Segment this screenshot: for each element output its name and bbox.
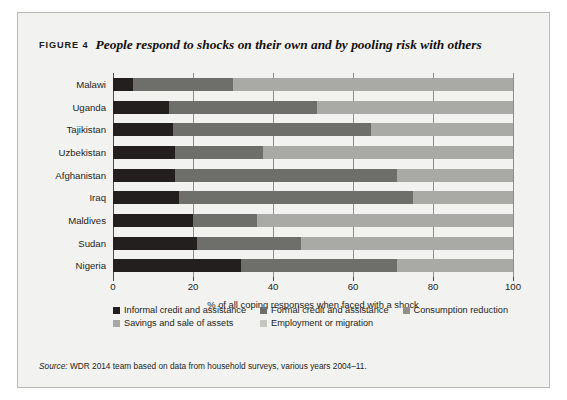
x-axis-tick-label: 60 bbox=[348, 281, 359, 292]
bar-row bbox=[113, 123, 513, 136]
x-axis-tick-label: 80 bbox=[428, 281, 439, 292]
gridline bbox=[513, 73, 514, 277]
figure-number-label: FIGURE 4 bbox=[39, 40, 89, 50]
legend-line: Informal credit and assistanceFormal cre… bbox=[113, 305, 538, 315]
bar-segment bbox=[173, 123, 371, 136]
legend-label: Savings and sale of assets bbox=[124, 318, 233, 328]
y-axis-category-label: Maldives bbox=[18, 215, 106, 226]
bar-segment bbox=[413, 191, 513, 204]
bar-segment bbox=[241, 259, 397, 272]
bar-row bbox=[113, 101, 513, 114]
bar-segment bbox=[113, 78, 133, 91]
y-axis-category-label: Afghanistan bbox=[18, 170, 106, 181]
plot-area: 020406080100 MalawiUgandaTajikistanUzbek… bbox=[113, 73, 513, 277]
legend-label: Formal credit and assistance bbox=[271, 305, 388, 315]
y-axis-category-label: Uzbekistan bbox=[18, 147, 106, 158]
figure-card: FIGURE 4People respond to shocks on thei… bbox=[17, 12, 550, 388]
bar-row bbox=[113, 191, 513, 204]
legend-label: Consumption reduction bbox=[414, 305, 508, 315]
bar-segment bbox=[113, 169, 175, 182]
bar-segment bbox=[169, 101, 317, 114]
bar-row bbox=[113, 169, 513, 182]
bar-segment bbox=[113, 191, 179, 204]
y-axis-category-label: Malawi bbox=[18, 79, 106, 90]
y-axis-category-label: Iraq bbox=[18, 192, 106, 203]
x-axis-tick-label: 20 bbox=[188, 281, 199, 292]
source-label: Source: bbox=[39, 361, 68, 371]
legend-label: Informal credit and assistance bbox=[124, 305, 246, 315]
legend-item[interactable]: Formal credit and assistance bbox=[260, 305, 388, 315]
bar-row bbox=[113, 259, 513, 272]
source-note: Source: WDR 2014 team based on data from… bbox=[39, 361, 367, 371]
source-text: WDR 2014 team based on data from househo… bbox=[68, 361, 367, 371]
bar-segment bbox=[113, 237, 197, 250]
bar-row bbox=[113, 78, 513, 91]
legend-swatch-icon bbox=[403, 307, 410, 314]
x-axis-tick-label: 100 bbox=[505, 281, 521, 292]
chart-plot-panel: 020406080100 MalawiUgandaTajikistanUzbek… bbox=[18, 61, 551, 289]
bar-segment bbox=[193, 214, 257, 227]
legend-item[interactable]: Informal credit and assistance bbox=[113, 305, 246, 315]
bar-segment bbox=[175, 169, 397, 182]
legend-swatch-icon bbox=[260, 307, 267, 314]
legend-swatch-icon bbox=[260, 320, 267, 327]
legend-item[interactable]: Consumption reduction bbox=[403, 305, 508, 315]
legend-line: Savings and sale of assetsEmployment or … bbox=[113, 318, 538, 328]
legend-item[interactable]: Employment or migration bbox=[260, 318, 388, 328]
bar-segment bbox=[397, 169, 513, 182]
bar-segment bbox=[113, 146, 175, 159]
bar-segment bbox=[397, 259, 513, 272]
bar-segment bbox=[371, 123, 513, 136]
bar-segment bbox=[317, 101, 513, 114]
y-axis-category-label: Tajikistan bbox=[18, 124, 106, 135]
figure-title: People respond to shocks on their own an… bbox=[96, 37, 482, 52]
y-axis-category-label: Uganda bbox=[18, 102, 106, 113]
bar-row bbox=[113, 214, 513, 227]
bar-row bbox=[113, 237, 513, 250]
chart-legend: Informal credit and assistanceFormal cre… bbox=[113, 305, 538, 331]
bar-segment bbox=[263, 146, 513, 159]
bar-segment bbox=[233, 78, 513, 91]
x-axis-tick-label: 40 bbox=[268, 281, 279, 292]
figure-title-row: FIGURE 4People respond to shocks on thei… bbox=[39, 35, 482, 53]
bar-segment bbox=[179, 191, 413, 204]
bar-segment bbox=[197, 237, 301, 250]
bar-segment bbox=[113, 101, 169, 114]
bar-segment bbox=[113, 214, 193, 227]
bar-segment bbox=[301, 237, 513, 250]
bar-segment bbox=[113, 123, 173, 136]
legend-swatch-icon bbox=[113, 320, 120, 327]
legend-label: Employment or migration bbox=[271, 318, 373, 328]
bar-segment bbox=[113, 259, 241, 272]
bar-segment bbox=[175, 146, 263, 159]
bar-row bbox=[113, 146, 513, 159]
bar-segment bbox=[133, 78, 233, 91]
legend-swatch-icon bbox=[113, 307, 120, 314]
legend-item[interactable]: Savings and sale of assets bbox=[113, 318, 246, 328]
x-axis-tick-label: 0 bbox=[110, 281, 115, 292]
bar-segment bbox=[257, 214, 513, 227]
y-axis-category-label: Nigeria bbox=[18, 260, 106, 271]
y-axis-category-label: Sudan bbox=[18, 238, 106, 249]
